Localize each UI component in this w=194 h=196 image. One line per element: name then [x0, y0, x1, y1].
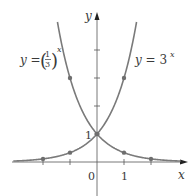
x-tick-label-1: 1 [121, 170, 128, 183]
y-axis-label: y [84, 9, 92, 23]
fraction-numerator: 1 [45, 50, 50, 59]
axes [12, 12, 188, 196]
x-axis-label: x [178, 168, 185, 182]
data-point [41, 157, 45, 161]
x-origin-label: 0 [88, 170, 95, 183]
y-axis-arrow-icon [95, 12, 100, 20]
series-label-text: y = 3 [134, 53, 167, 67]
series-label-exponent: x [57, 45, 62, 54]
series-label-exponent: x [170, 50, 175, 59]
data-point [68, 150, 72, 154]
x-axis-arrow-icon [180, 160, 188, 165]
exponential-graph: x y 0 1 1 y = ( 1 3 ) x y = 3 x [0, 0, 194, 196]
data-point [95, 132, 99, 136]
data-point [122, 150, 126, 154]
series-label-one-third: y = ( 1 3 ) x [19, 45, 62, 71]
fraction-denominator: 3 [45, 60, 50, 69]
series-label-prefix: y = [19, 53, 41, 67]
data-point [149, 157, 153, 161]
data-point [122, 76, 126, 80]
y-tick-label-1: 1 [85, 129, 92, 142]
series-label-three-power: y = 3 x [134, 50, 175, 67]
data-point [68, 76, 72, 80]
